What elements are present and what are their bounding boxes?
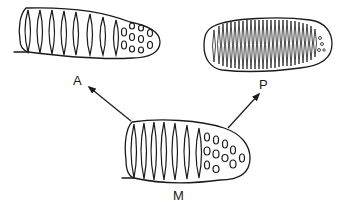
shape-m-stripes — [131, 122, 202, 180]
shape-m-dots — [204, 133, 245, 173]
label-m: M — [173, 188, 184, 203]
label-p: P — [259, 77, 268, 92]
diagram-canvas: A P M — [0, 0, 345, 214]
shape-p — [204, 18, 332, 71]
label-a: A — [73, 73, 82, 88]
shape-p-stripes — [213, 20, 317, 69]
shape-a — [14, 8, 160, 59]
arrow-to-a — [89, 87, 131, 121]
shape-p-dots — [318, 37, 326, 52]
shape-a-stripes — [25, 10, 119, 55]
shape-m — [122, 120, 250, 183]
arrow-to-p — [228, 94, 259, 128]
